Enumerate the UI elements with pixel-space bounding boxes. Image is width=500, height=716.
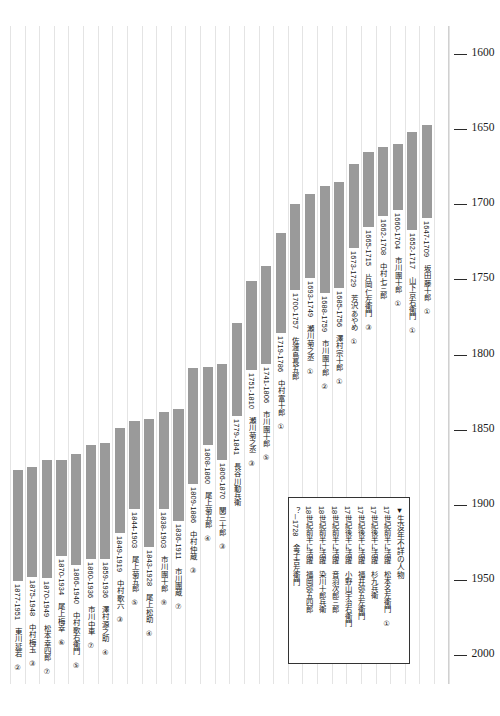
lifespan-bar[interactable] [86,445,96,559]
legend-entry: 17世紀後半に活躍 杉九兵衛 [370,506,377,658]
lifespan-bar[interactable] [334,182,344,289]
axis-tick [454,355,467,356]
bar-label: 1843-1928 尾上松助 ④ [145,550,152,683]
bar-label: 1844-1903 尾上菊五郎 ⑤ [131,512,138,683]
gridline [244,26,245,684]
bar-label: 1809-1886 中村仲蔵 ③ [189,487,196,683]
legend-entry: 17世紀後半に活躍 福井弥五左衛門 [357,506,364,658]
lifespan-bar[interactable] [261,266,271,364]
legend-entry: 17世紀後半に活躍 小野山宇治右衛門 [344,506,351,658]
y-axis-spine [448,26,449,684]
lifespan-bar[interactable] [56,460,66,556]
bar-label: 1719-1786 中村富十郎 ① [277,336,284,683]
bar-label: 1751-1810 瀬川菊之丞 ③ [248,373,255,683]
lifespan-bar[interactable] [203,367,213,445]
bar-label: 1849-1919 中村歌六 ③ [116,536,123,683]
lifespan-bar[interactable] [144,419,154,547]
lifespan-bar[interactable] [115,428,125,533]
lifespan-bar[interactable] [305,194,315,278]
legend-entry: 18世紀前半に活躍 染川十郎兵衛 [318,506,325,658]
gridline [68,26,69,684]
legend-title: ▼生没年不詳の人物 [395,506,403,658]
bar-label: 1808-1860 尾上菊五郎 ④ [204,448,211,683]
axis-tick [454,580,467,581]
gridline [171,26,172,684]
lifespan-bar[interactable] [188,368,198,484]
gridline [83,26,84,684]
gridline [419,26,420,684]
gridline [434,26,435,684]
axis-tick-label: 1850 [471,422,494,434]
axis-tick-label: 2000 [471,647,494,659]
axis-tick-label: 1700 [471,196,494,208]
bar-label: 1647-1709 坂田藤十郎 ① [423,221,430,683]
axis-tick [454,204,467,205]
lifespan-bar[interactable] [246,281,256,370]
bar-label: 1870-1949 松本幸四郎 ⑦ [43,581,50,683]
lifespan-bar[interactable] [232,323,242,416]
axis-tick-label: 1900 [471,497,494,509]
gridline [185,26,186,684]
legend-box: ▼生没年不詳の人物17世紀前半に活躍 松本名左衛門 ①17世紀後半に活躍 杉九兵… [288,497,410,664]
lifespan-timeline-chart: 1877-1951 東川延若 ②1875-1948 中村梅玉 ③1870-194… [0,0,500,716]
lifespan-bar[interactable] [71,454,81,565]
lifespan-bar[interactable] [349,164,359,248]
bar-label: 1860-1936 市川中車 ⑦ [87,562,94,683]
legend-entry: ？－1728 金子吉左衛門 [292,506,299,658]
bar-label: 1877-1951 東川延若 ② [14,584,21,683]
lifespan-bar[interactable] [100,443,110,559]
legend-entry: 17世紀前半に活躍 松本名左衛門 ① [383,506,390,658]
lifespan-bar[interactable] [363,152,373,227]
axis-tick-label: 1800 [471,347,494,359]
lifespan-bar[interactable] [217,364,227,460]
gridline [98,26,99,684]
gridline [259,26,260,684]
axis-tick [454,129,467,130]
bar-label: 1870-1934 尾上梅幸 ⑥ [58,559,65,683]
bar-label: 1779-1841 長谷川勤兵衛 [233,419,240,683]
bar-label: 1859-1936 澤村源之助 ④ [101,562,108,683]
gridline [200,26,201,684]
axis-tick [454,430,467,431]
lifespan-bar[interactable] [422,125,432,218]
bar-label: 1838-1903 市川團十郎 ⑨ [160,512,167,683]
lifespan-bar[interactable] [129,421,139,510]
legend-entry: 18世紀前半に活躍 福岡弥五四郎 [305,506,312,658]
axis-tick [454,655,467,656]
gridline [229,26,230,684]
lifespan-bar[interactable] [173,409,183,522]
axis-tick-label: 1650 [471,121,494,133]
gridline [127,26,128,684]
axis-tick [454,54,467,55]
bar-label: 1866-1940 中村歌右衛門 ⑤ [72,568,79,683]
lifespan-bar[interactable] [42,460,52,579]
axis-tick-label: 1750 [471,271,494,283]
lifespan-bar[interactable] [407,132,417,230]
lifespan-bar[interactable] [159,412,169,510]
gridline [25,26,26,684]
gridline [156,26,157,684]
axis-tick [454,279,467,280]
lifespan-bar[interactable] [320,186,330,293]
axis-tick-label: 1950 [471,572,494,584]
gridline [54,26,55,684]
bar-label: 1806-1870 関三十郎 ③ [218,463,225,683]
lifespan-bar[interactable] [27,467,37,577]
bar-label: 1875-1948 中村梅玉 ③ [28,580,35,683]
lifespan-bar[interactable] [378,147,388,216]
gridline [142,26,143,684]
lifespan-bar[interactable] [276,233,286,334]
gridline [273,26,274,684]
lifespan-bar[interactable] [13,470,23,581]
gridline [112,26,113,684]
lifespan-bar[interactable] [290,204,300,290]
lifespan-bar[interactable] [393,144,403,210]
legend-entry: 18世紀前半に活躍 音羽次郎三郎 [331,506,338,658]
axis-tick-label: 1600 [471,46,494,58]
axis-tick [454,505,467,506]
gridline [10,26,11,684]
bar-label: 1836-1911 市川團蔵 ⑦ [175,524,182,683]
gridline [39,26,40,684]
bar-label: 1741-1806 市川團十郎 ⑤ [262,367,269,683]
gridline [215,26,216,684]
